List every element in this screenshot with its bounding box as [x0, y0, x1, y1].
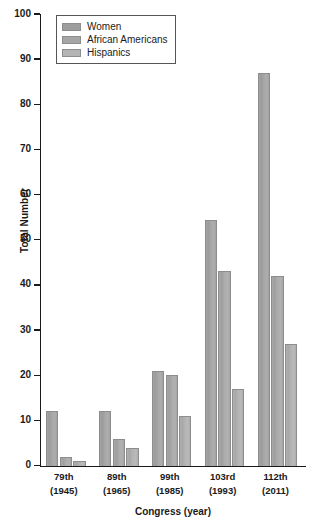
- bar-women-79th: [46, 411, 58, 465]
- y-axis-tick: [34, 375, 40, 376]
- bar-hispanics-103rd: [232, 389, 244, 466]
- x-axis-line: [40, 466, 306, 468]
- y-axis-tick-label: 40: [1, 278, 31, 289]
- y-axis-tick-label: 0: [1, 459, 31, 470]
- legend-item-african-americans: African Americans: [62, 33, 168, 46]
- legend-swatch-icon-women: [62, 23, 81, 31]
- y-axis-tick: [34, 104, 40, 105]
- y-axis-tick-label: 60: [1, 188, 31, 199]
- y-axis-tick-label: 90: [1, 53, 31, 64]
- bar-african-americans-89th: [113, 439, 125, 466]
- legend-item-hispanics: Hispanics: [62, 46, 168, 59]
- x-axis-title: Congress (year): [40, 506, 306, 517]
- y-axis-tick: [34, 329, 40, 330]
- bar-hispanics-112th: [285, 344, 297, 466]
- y-axis-tick-label: 70: [1, 143, 31, 154]
- x-label-year: (1985): [143, 484, 196, 498]
- x-label-year: (1965): [90, 484, 143, 498]
- x-axis-category-label: 112th(2011): [249, 470, 302, 497]
- bar-african-americans-112th: [271, 276, 283, 466]
- bar-hispanics-89th: [126, 448, 138, 466]
- bar-chart: Total Number 0102030405060708090100 79th…: [0, 0, 312, 531]
- y-axis-tick: [34, 149, 40, 150]
- legend-label-african-americans: African Americans: [87, 33, 168, 46]
- x-axis-category-label: 103rd(1993): [196, 470, 249, 497]
- bar-african-americans-103rd: [218, 271, 230, 465]
- y-axis-tick: [34, 420, 40, 421]
- bar-hispanics-99th: [179, 416, 191, 466]
- bar-women-99th: [152, 371, 164, 466]
- bar-women-103rd: [205, 220, 217, 466]
- y-axis-tick-label: 100: [1, 8, 31, 19]
- chart-legend: Women African Americans Hispanics: [56, 15, 176, 64]
- y-axis-tick-label: 20: [1, 369, 31, 380]
- y-axis-tick: [34, 13, 40, 14]
- y-axis-tick: [34, 284, 40, 285]
- legend-swatch-icon-african-americans: [62, 36, 81, 44]
- x-axis-category-label: 79th(1945): [37, 470, 90, 497]
- bar-women-112th: [258, 73, 270, 466]
- legend-label-hispanics: Hispanics: [87, 46, 130, 59]
- x-label-congress: 112th: [249, 470, 302, 484]
- y-axis-title: Total Number: [19, 151, 30, 291]
- x-axis-category-label: 99th(1985): [143, 470, 196, 497]
- y-axis-tick-label: 30: [1, 324, 31, 335]
- y-axis-tick-label: 10: [1, 414, 31, 425]
- legend-swatch-icon-hispanics: [62, 49, 81, 57]
- x-label-congress: 79th: [37, 470, 90, 484]
- y-axis-tick: [34, 194, 40, 195]
- x-label-congress: 99th: [143, 470, 196, 484]
- y-axis-tick: [34, 239, 40, 240]
- y-axis-tick: [34, 58, 40, 59]
- bar-african-americans-79th: [60, 457, 72, 466]
- x-axis-category-label: 89th(1965): [90, 470, 143, 497]
- y-axis-tick-label: 80: [1, 98, 31, 109]
- x-label-congress: 89th: [90, 470, 143, 484]
- x-label-year: (2011): [249, 484, 302, 498]
- bar-women-89th: [99, 411, 111, 465]
- x-label-year: (1945): [37, 484, 90, 498]
- legend-label-women: Women: [87, 20, 121, 33]
- legend-item-women: Women: [62, 20, 168, 33]
- y-axis-line: [40, 14, 41, 466]
- bar-african-americans-99th: [166, 375, 178, 465]
- x-label-year: (1993): [196, 484, 249, 498]
- x-label-congress: 103rd: [196, 470, 249, 484]
- y-axis-tick-label: 50: [1, 233, 31, 244]
